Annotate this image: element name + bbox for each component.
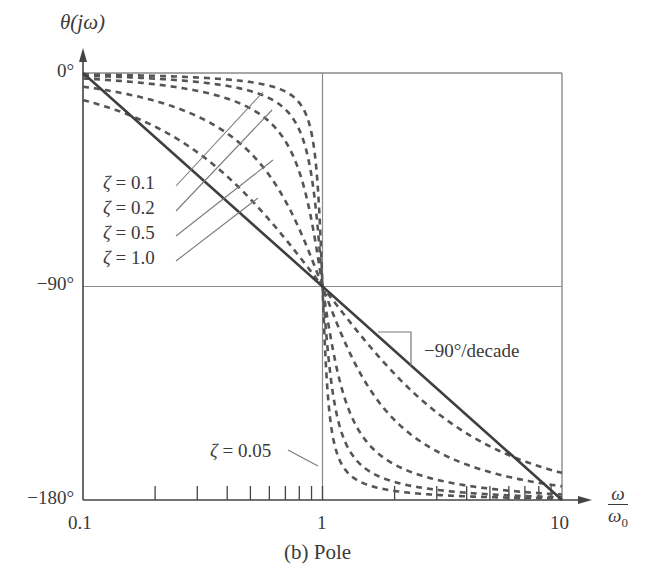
pointer-line [176,198,258,261]
zeta-value: = 0.5 [111,222,155,243]
y-tick-minus90: −90° [4,273,74,295]
zeta-value: = 0.1 [111,172,155,193]
x-tick-1: 1 [317,512,327,534]
x-tick-0.1: 0.1 [68,512,92,534]
x-label-denominator: ω0 [608,505,628,534]
x-label-numerator: ω [608,484,628,505]
y-axis-label: θ(jω) [60,10,105,35]
pointer-line [288,450,318,466]
figure-caption: (b) Pole [284,540,351,565]
zeta-label-0.1: ζ = 0.1 [103,172,155,194]
zeta-value: = 0.2 [111,197,155,218]
annotations [176,92,411,466]
zeta-label-0.2: ζ = 0.2 [103,197,155,219]
x-label-subscript: 0 [621,515,628,530]
zeta-symbol: ζ [103,197,111,218]
zeta-label-1.0: ζ = 1.0 [103,247,155,269]
zeta-symbol: ζ [103,222,111,243]
zeta-value: = 0.05 [218,440,271,461]
phase-plot [0,0,645,588]
y-axis-arrow-icon [79,48,87,62]
zeta-label-0.5: ζ = 0.5 [103,222,155,244]
zeta-symbol: ζ [103,247,111,268]
pointer-line [176,92,263,186]
slope-label: −90°/decade [424,340,519,362]
zeta-value: = 1.0 [111,247,155,268]
pointer-line [176,160,273,236]
plot-frame [79,48,592,504]
y-tick-0: 0° [4,60,74,82]
x-label-omega: ω [608,505,621,526]
x-axis-label: ω ω0 [608,484,628,534]
y-tick-minus180: −180° [4,487,74,509]
zeta-symbol: ζ [103,172,111,193]
pointer-line [176,110,272,211]
x-tick-10: 10 [550,512,569,534]
zeta-label-0.05: ζ = 0.05 [210,440,271,462]
x-axis-arrow-icon [578,496,592,504]
zeta-symbol: ζ [210,440,218,461]
